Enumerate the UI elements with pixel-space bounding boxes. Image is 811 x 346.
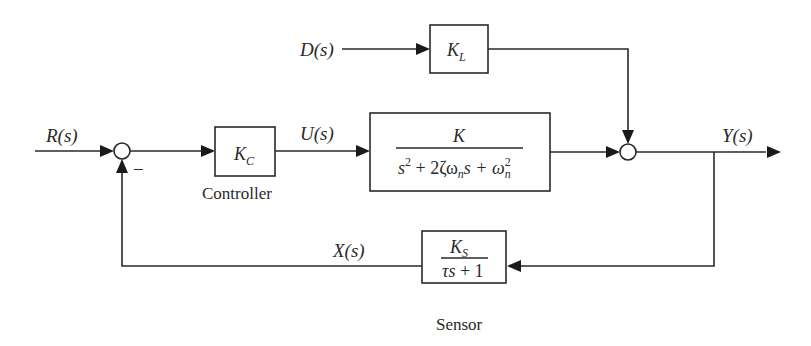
output-label: Y(s) [722,125,753,147]
control-signal-label: U(s) [300,123,334,145]
arrowhead-icon [767,146,781,158]
arrowhead-icon [622,130,634,144]
plant-numerator: K [452,126,466,146]
disturbance-label: D(s) [299,39,334,61]
arrowhead-icon [201,145,215,157]
block-diagram: R(s) − KC Controller U(s) D(s) KL K s2 +… [0,0,811,346]
arrowhead-icon [356,145,370,157]
feedback-label: X(s) [332,240,365,262]
reference-label: R(s) [45,125,78,147]
controller-caption: Controller [202,184,272,203]
arrowhead-icon [606,146,620,158]
arrowhead-icon [507,260,521,272]
output-summing-junction [620,144,636,160]
plant-denominator: s2 + 2ζωns + ω2n [398,155,511,181]
minus-sign: − [133,159,144,180]
arrowhead-icon [416,43,430,55]
arrowhead-icon [100,145,114,157]
error-summing-junction [114,143,130,159]
arrowhead-icon [116,159,128,173]
sensor-denominator: τs + 1 [442,261,484,281]
sensor-caption: Sensor [436,315,483,334]
